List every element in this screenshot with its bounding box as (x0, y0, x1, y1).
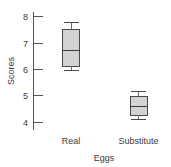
y-axis-title: Scores (6, 56, 16, 85)
plot-area: 8 7 6 5 4 Scores Real Substi (0, 0, 171, 167)
y-tick-label-6: 6 (23, 65, 28, 75)
x-category-label-substitute: Substitute (118, 136, 158, 146)
y-tick-label-8: 8 (23, 12, 28, 22)
x-axis-title: Eggs (94, 153, 115, 163)
x-category-label-real: Real (62, 136, 81, 146)
y-tick-label-4: 4 (23, 118, 28, 128)
y-tick-label-7: 7 (23, 39, 28, 49)
y-tick-label-5: 5 (23, 91, 28, 101)
boxplot-chart: 8 7 6 5 4 Scores Real Substi (0, 0, 171, 167)
box-real-rect (63, 29, 80, 66)
